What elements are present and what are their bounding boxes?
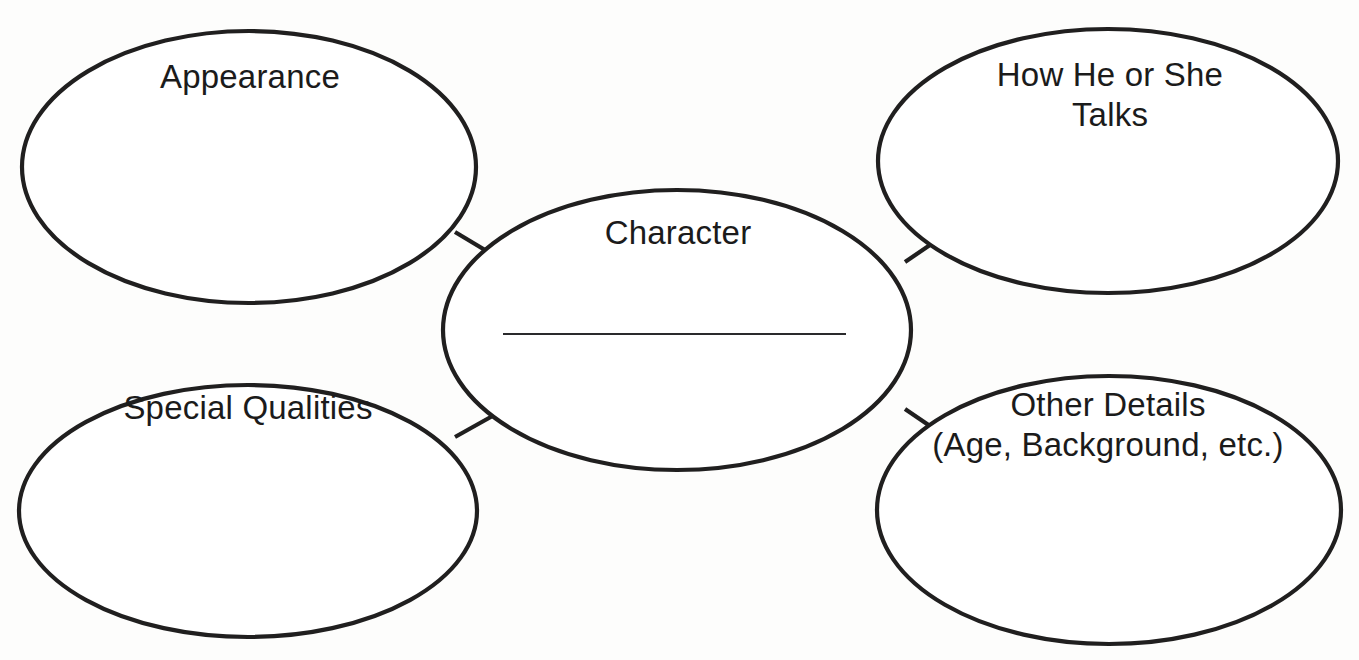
bubble-special-qualities[interactable] <box>19 385 477 637</box>
organizer-shapes <box>0 0 1359 660</box>
bubble-how-he-or-she-talks[interactable] <box>878 29 1338 293</box>
worksheet-canvas: Appearance How He or She Talks Character… <box>0 0 1359 660</box>
bubble-appearance[interactable] <box>22 31 476 303</box>
bubble-character-center[interactable] <box>443 190 911 470</box>
bubble-other-details[interactable] <box>877 376 1341 644</box>
